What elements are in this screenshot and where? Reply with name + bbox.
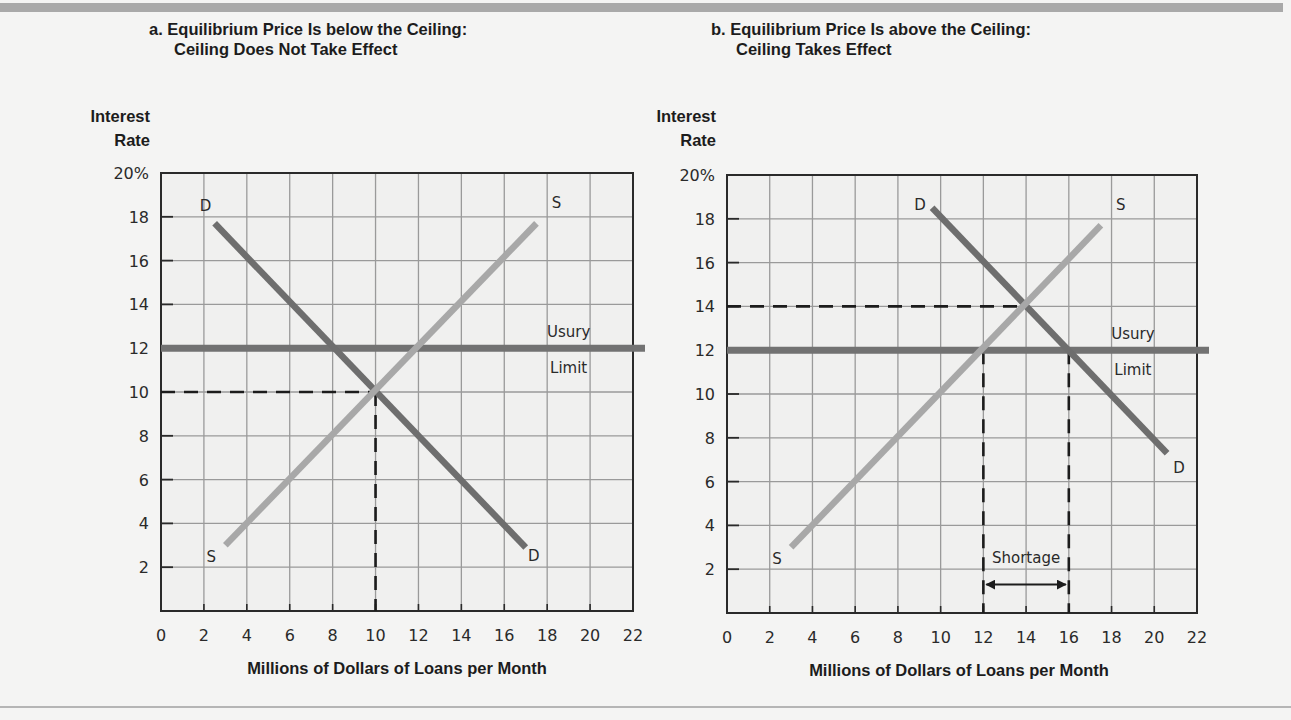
x-tick-label: 20 xyxy=(1144,628,1164,647)
x-tick-label: 2 xyxy=(199,626,209,645)
x-tick-label: 12 xyxy=(408,626,428,645)
x-tick-label: 18 xyxy=(1101,628,1121,647)
y-tick-label: 20% xyxy=(113,164,149,183)
supply-label-end: S xyxy=(1116,196,1126,214)
panel-b-xlabel: Millions of Dollars of Loans per Month xyxy=(809,661,1109,679)
x-tick-label: 16 xyxy=(1059,628,1079,647)
usury-label: Usury xyxy=(547,323,590,341)
y-tick-label: 18 xyxy=(695,210,715,229)
panel-a-xlabel: Millions of Dollars of Loans per Month xyxy=(247,659,547,677)
y-tick-label: 4 xyxy=(705,516,715,535)
demand-label-end: D xyxy=(528,547,540,565)
y-tick-label: 18 xyxy=(129,208,149,227)
demand-label-start: D xyxy=(200,197,212,215)
x-tick-label: 10 xyxy=(930,628,950,647)
panel-b: b. Equilibrium Price Is above the Ceilin… xyxy=(656,20,1209,679)
x-tick-label: 0 xyxy=(722,628,732,647)
x-tick-label: 6 xyxy=(850,628,860,647)
supply-label-end: S xyxy=(552,194,562,212)
y-tick-label: 12 xyxy=(695,341,715,360)
x-tick-label: 4 xyxy=(242,626,252,645)
x-tick-label: 18 xyxy=(537,626,557,645)
limit-label: Limit xyxy=(1114,361,1151,379)
x-tick-label: 16 xyxy=(494,626,514,645)
y-tick-label: 20% xyxy=(679,166,715,185)
x-tick-label: 14 xyxy=(451,626,471,645)
x-tick-label: 22 xyxy=(623,626,643,645)
y-tick-label: 8 xyxy=(139,427,149,446)
usury-label: Usury xyxy=(1111,325,1154,343)
x-tick-label: 8 xyxy=(893,628,903,647)
charts-canvas: a. Equilibrium Price Is below the Ceilin… xyxy=(0,0,1291,720)
x-tick-label: 0 xyxy=(156,626,166,645)
demand-label-start: D xyxy=(914,196,926,214)
x-tick-label: 12 xyxy=(973,628,993,647)
y-tick-label: 6 xyxy=(139,471,149,490)
panel-a-ylabel-line1: Interest xyxy=(90,107,150,125)
y-tick-label: 10 xyxy=(695,385,715,404)
x-tick-label: 22 xyxy=(1187,628,1207,647)
panel-b-ylabel-line1: Interest xyxy=(656,107,716,125)
shortage-label: Shortage xyxy=(992,549,1060,567)
x-tick-label: 8 xyxy=(328,626,338,645)
limit-label: Limit xyxy=(550,359,587,377)
y-tick-label: 2 xyxy=(139,558,149,577)
panel-a-title-line2: Ceiling Does Not Take Effect xyxy=(174,40,398,58)
x-tick-label: 2 xyxy=(765,628,775,647)
y-tick-label: 16 xyxy=(695,254,715,273)
panel-b-title-line1: b. Equilibrium Price Is above the Ceilin… xyxy=(711,20,1031,38)
y-tick-label: 14 xyxy=(129,295,149,314)
x-tick-label: 4 xyxy=(807,628,817,647)
y-tick-label: 2 xyxy=(705,560,715,579)
y-tick-label: 14 xyxy=(695,297,715,316)
panel-a-ylabel-line2: Rate xyxy=(114,131,150,149)
y-tick-label: 10 xyxy=(129,383,149,402)
x-tick-label: 20 xyxy=(580,626,600,645)
panel-b-title-line2: Ceiling Takes Effect xyxy=(736,40,892,58)
x-tick-label: 6 xyxy=(285,626,295,645)
demand-label-end: D xyxy=(1173,459,1185,477)
panel-a-title-line1: a. Equilibrium Price Is below the Ceilin… xyxy=(149,20,467,38)
panel-b-ylabel-line2: Rate xyxy=(680,131,716,149)
y-tick-label: 8 xyxy=(705,429,715,448)
supply-label-start: S xyxy=(207,548,217,566)
supply-label-start: S xyxy=(772,550,782,568)
x-tick-label: 10 xyxy=(365,626,385,645)
y-tick-label: 6 xyxy=(705,473,715,492)
x-tick-label: 14 xyxy=(1016,628,1036,647)
panel-a: a. Equilibrium Price Is below the Ceilin… xyxy=(90,20,645,677)
y-tick-label: 12 xyxy=(129,339,149,358)
y-tick-label: 16 xyxy=(129,252,149,271)
y-tick-label: 4 xyxy=(139,514,149,533)
